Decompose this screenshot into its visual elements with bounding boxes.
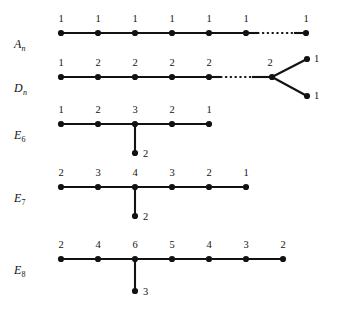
dn-node-upper-mark: 1 xyxy=(314,54,319,65)
an-node-4-mark: 1 xyxy=(169,14,174,25)
e7-node-branch[interactable] xyxy=(132,213,138,219)
dn-node-4[interactable] xyxy=(169,74,175,80)
e6-node-2-mark: 2 xyxy=(95,105,100,116)
e8-node-4-mark: 5 xyxy=(169,240,174,251)
row-label-Dn-subscript: n xyxy=(23,88,27,97)
dn-node-1-mark: 1 xyxy=(58,58,63,69)
e6-node-3-mark: 3 xyxy=(132,105,137,116)
dynkin-diagram-figure: 1111111An12222211Dn123212E62343212E72465… xyxy=(0,0,337,319)
e8-node-7-mark: 2 xyxy=(280,240,285,251)
row-label-E8-base: E xyxy=(14,263,22,277)
e7-node-6[interactable] xyxy=(243,184,249,190)
row-label-E8-subscript: 8 xyxy=(22,270,26,279)
an-node-6-mark: 1 xyxy=(243,14,248,25)
e8-node-2[interactable] xyxy=(95,256,101,262)
an-node-3[interactable] xyxy=(132,30,138,36)
an-node-1[interactable] xyxy=(58,30,64,36)
row-label-E7: E7 xyxy=(14,192,26,207)
dn-node-1[interactable] xyxy=(58,74,64,80)
e6-node-2[interactable] xyxy=(95,121,101,127)
e7-node-4[interactable] xyxy=(169,184,175,190)
e7-node-1-mark: 2 xyxy=(58,168,63,179)
e8-node-3[interactable] xyxy=(132,256,138,262)
dn-node-lower-mark: 1 xyxy=(314,91,319,102)
e8-node-5[interactable] xyxy=(206,256,212,262)
an-node-7-mark: 1 xyxy=(303,14,308,25)
dn-node-lower[interactable] xyxy=(304,93,310,99)
e7-node-3-mark: 4 xyxy=(132,168,137,179)
e6-node-3[interactable] xyxy=(132,121,138,127)
e7-node-1[interactable] xyxy=(58,184,64,190)
an-node-5-mark: 1 xyxy=(206,14,211,25)
e8-node-7[interactable] xyxy=(280,256,286,262)
an-node-2-mark: 1 xyxy=(95,14,100,25)
e7-node-6-mark: 1 xyxy=(243,168,248,179)
e6-node-5[interactable] xyxy=(206,121,212,127)
an-node-5[interactable] xyxy=(206,30,212,36)
e8-node-6[interactable] xyxy=(243,256,249,262)
row-label-An-base: A xyxy=(14,37,22,51)
row-label-E7-subscript: 7 xyxy=(22,198,26,207)
e7-node-5-mark: 2 xyxy=(206,168,211,179)
row-label-E7-base: E xyxy=(14,191,22,205)
row-label-Dn-base: D xyxy=(14,81,23,95)
dn-node-5[interactable] xyxy=(206,74,212,80)
dn-node-3[interactable] xyxy=(132,74,138,80)
e8-node-4[interactable] xyxy=(169,256,175,262)
an-node-2[interactable] xyxy=(95,30,101,36)
row-label-E6-subscript: 6 xyxy=(22,135,26,144)
dn-edge-fork-upper xyxy=(272,59,307,77)
dn-edge-fork-lower xyxy=(272,77,307,96)
e7-node-2-mark: 3 xyxy=(95,168,100,179)
e6-node-branch[interactable] xyxy=(132,150,138,156)
dn-node-4-mark: 2 xyxy=(169,58,174,69)
row-label-E6-base: E xyxy=(14,128,22,142)
an-node-6[interactable] xyxy=(243,30,249,36)
row-label-An: An xyxy=(14,38,26,53)
dn-node-2-mark: 2 xyxy=(95,58,100,69)
e6-node-4-mark: 2 xyxy=(169,105,174,116)
row-label-Dn: Dn xyxy=(14,82,27,97)
e7-node-4-mark: 3 xyxy=(169,168,174,179)
e8-node-1-mark: 2 xyxy=(58,240,63,251)
dn-node-fork[interactable] xyxy=(269,74,275,80)
an-node-3-mark: 1 xyxy=(132,14,137,25)
e8-node-1[interactable] xyxy=(58,256,64,262)
e6-node-1[interactable] xyxy=(58,121,64,127)
e8-node-3-mark: 6 xyxy=(132,240,137,251)
e6-node-5-mark: 1 xyxy=(206,105,211,116)
an-node-1-mark: 1 xyxy=(58,14,63,25)
row-label-E6: E6 xyxy=(14,129,26,144)
e6-node-4[interactable] xyxy=(169,121,175,127)
an-node-7[interactable] xyxy=(303,30,309,36)
e6-node-1-mark: 1 xyxy=(58,105,63,116)
e8-node-branch-mark: 3 xyxy=(143,287,148,298)
dn-node-2[interactable] xyxy=(95,74,101,80)
e6-node-branch-mark: 2 xyxy=(143,149,148,160)
e8-node-2-mark: 4 xyxy=(95,240,100,251)
row-label-E8: E8 xyxy=(14,264,26,279)
row-label-An-subscript: n xyxy=(22,44,26,53)
e7-node-3[interactable] xyxy=(132,184,138,190)
e7-node-5[interactable] xyxy=(206,184,212,190)
dn-node-3-mark: 2 xyxy=(132,58,137,69)
e8-node-5-mark: 4 xyxy=(206,240,211,251)
dn-node-upper[interactable] xyxy=(304,56,310,62)
e8-node-6-mark: 3 xyxy=(243,240,248,251)
e7-node-2[interactable] xyxy=(95,184,101,190)
dn-node-5-mark: 2 xyxy=(206,58,211,69)
e7-node-branch-mark: 2 xyxy=(143,212,148,223)
an-node-4[interactable] xyxy=(169,30,175,36)
dn-node-fork-mark: 2 xyxy=(267,58,272,69)
e8-node-branch[interactable] xyxy=(132,288,138,294)
diagram-canvas xyxy=(0,0,337,319)
